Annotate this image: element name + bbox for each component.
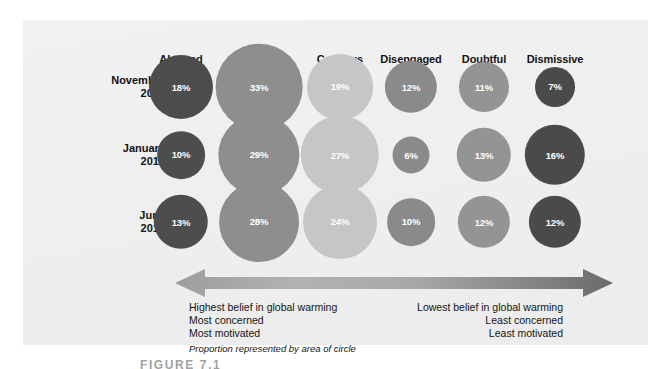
bubble-value: 19% [331, 82, 349, 93]
figure-root: AlarmedConcernedCautiousDisengagedDoubtf… [0, 0, 668, 369]
bubble-value: 18% [172, 82, 190, 93]
proportion-note: Proportion represented by area of circle [189, 342, 356, 355]
bubble-value: 6% [404, 149, 417, 160]
bubble-alarmed-june2010: 13% [154, 195, 208, 249]
bubble-value: 12% [546, 216, 564, 227]
annotation-right-line1: Lowest belief in global warming [417, 301, 563, 314]
bubble-doubtful-january2010: 13% [457, 128, 511, 182]
bubble-value: 33% [250, 81, 268, 92]
bubble-value: 12% [402, 81, 420, 92]
annotation-right: Lowest belief in global warming Least co… [417, 301, 563, 341]
annotation-left-line3: Most motivated [189, 327, 356, 340]
bubble-alarmed-november2008: 18% [149, 55, 213, 119]
row-label-line1: January [85, 142, 165, 155]
bubble-disengaged-june2010: 10% [387, 198, 435, 246]
figure-caption: FIGURE 7.1 [140, 358, 221, 369]
annotation-left: Highest belief in global warming Most co… [189, 301, 356, 355]
bubble-value: 28% [250, 216, 268, 227]
bubble-dismissive-november2008: 7% [535, 67, 575, 107]
bubble-value: 27% [331, 149, 349, 160]
bubble-doubtful-june2010: 12% [458, 196, 510, 248]
bubble-value: 10% [402, 217, 420, 228]
annotation-right-line2: Least concerned [417, 314, 563, 327]
row-label-line2: 2010 [85, 155, 165, 168]
annotation-right-line3: Least motivated [417, 327, 563, 340]
bubble-value: 24% [331, 217, 349, 228]
bubble-disengaged-january2010: 6% [393, 137, 430, 174]
bubble-dismissive-january2010: 16% [525, 125, 585, 185]
bubble-doubtful-november2008: 11% [459, 62, 509, 112]
bubble-cautious-june2010: 24% [303, 185, 377, 259]
bubble-value: 29% [250, 150, 268, 161]
bubble-dismissive-june2010: 12% [529, 196, 581, 248]
bubble-value: 7% [548, 82, 561, 93]
bubble-cautious-november2008: 19% [307, 54, 373, 120]
bubble-value: 16% [546, 149, 564, 160]
bubble-cautious-january2010: 27% [301, 116, 379, 194]
double-headed-spectrum-arrow-icon [175, 268, 613, 298]
bubble-value: 10% [172, 150, 190, 161]
bubble-disengaged-november2008: 12% [385, 61, 437, 113]
chart-panel: AlarmedConcernedCautiousDisengagedDoubtf… [23, 20, 648, 345]
bubble-value: 13% [475, 150, 493, 161]
row-label-january-2010: January2010 [85, 142, 165, 168]
bubble-value: 11% [475, 81, 493, 92]
column-header-dismissive: Dismissive [527, 53, 583, 65]
bubble-concerned-june2010: 28% [219, 182, 299, 262]
bubble-value: 12% [475, 216, 493, 227]
bubble-alarmed-january2010: 10% [157, 131, 205, 179]
bubble-value: 13% [172, 217, 190, 228]
annotation-left-line1: Highest belief in global warming [189, 301, 356, 314]
annotation-left-line2: Most concerned [189, 314, 356, 327]
